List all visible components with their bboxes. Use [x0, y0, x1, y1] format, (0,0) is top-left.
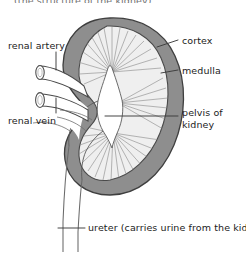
- label-pelvis-line2: kidney: [182, 119, 214, 130]
- label-pelvis-of-kidney: pelvis of kidney: [182, 107, 242, 130]
- label-cortex: cortex: [182, 35, 213, 47]
- label-ureter: ureter (carries urine from the kidney): [88, 222, 246, 234]
- kidney-diagram-figure: (the structure of the kidney): [0, 0, 246, 258]
- label-renal-vein: renal vein: [8, 115, 56, 127]
- label-pelvis-line1: pelvis of: [182, 107, 223, 118]
- label-medulla: medulla: [182, 65, 221, 77]
- label-renal-artery: renal artery: [8, 40, 65, 52]
